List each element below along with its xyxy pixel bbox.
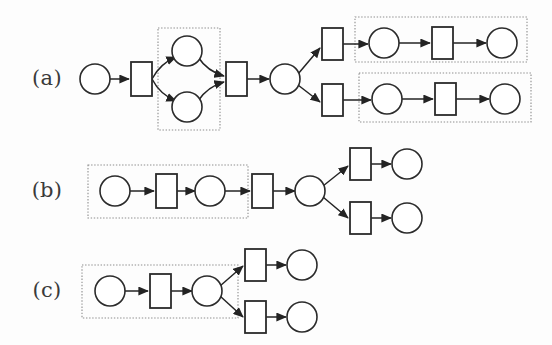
arc-row-c-2 — [220, 266, 243, 286]
row-label-row-a: (a) — [32, 66, 62, 90]
place-c-p2[interactable] — [287, 250, 317, 280]
place-b-p1[interactable] — [195, 176, 225, 206]
transition-b-t3[interactable] — [350, 202, 371, 234]
place-a-p0[interactable] — [80, 64, 110, 94]
transition-a-t5[interactable] — [435, 83, 456, 115]
arc-row-c-3 — [220, 296, 243, 317]
row-label-row-b: (b) — [32, 178, 63, 202]
petri-net-figure: (a)(b)(c) — [0, 0, 552, 345]
place-b-p4[interactable] — [392, 203, 422, 233]
place-a-p6[interactable] — [372, 84, 402, 114]
place-a-p4[interactable] — [369, 28, 399, 58]
transition-b-t0[interactable] — [156, 174, 177, 208]
transition-c-t2[interactable] — [245, 301, 266, 333]
transition-a-t2[interactable] — [322, 28, 343, 60]
place-a-p5[interactable] — [487, 28, 517, 58]
place-a-p2[interactable] — [172, 92, 202, 122]
transition-a-t3[interactable] — [322, 84, 343, 116]
place-c-p0[interactable] — [95, 276, 125, 306]
row-a — [80, 17, 531, 130]
place-c-p3[interactable] — [287, 302, 317, 332]
transition-a-t1[interactable] — [226, 62, 247, 96]
row-labels: (a)(b)(c) — [32, 66, 63, 302]
place-c-p1[interactable] — [192, 276, 222, 306]
arc-row-a-2 — [152, 79, 176, 101]
place-b-p0[interactable] — [100, 176, 130, 206]
row-label-row-c: (c) — [32, 278, 61, 302]
transition-b-t1[interactable] — [252, 174, 273, 208]
place-a-p1[interactable] — [172, 36, 202, 66]
arc-row-a-7 — [298, 85, 320, 102]
arc-row-a-6 — [298, 48, 320, 74]
transition-a-t0[interactable] — [131, 62, 152, 96]
arc-row-b-4 — [323, 166, 348, 186]
row-b — [88, 148, 422, 234]
diagram-scene — [80, 17, 531, 333]
place-a-p3[interactable] — [270, 64, 300, 94]
place-a-p7[interactable] — [490, 84, 520, 114]
transition-b-t2[interactable] — [350, 148, 371, 180]
transition-c-t0[interactable] — [150, 274, 171, 308]
place-b-p2[interactable] — [295, 176, 325, 206]
row-c — [82, 249, 317, 333]
place-b-p3[interactable] — [392, 149, 422, 179]
arc-row-a-1 — [152, 57, 176, 79]
transition-c-t1[interactable] — [245, 249, 266, 281]
arc-row-b-5 — [323, 197, 348, 218]
transition-a-t4[interactable] — [432, 27, 453, 59]
petri-net-canvas: (a)(b)(c) — [0, 0, 552, 345]
